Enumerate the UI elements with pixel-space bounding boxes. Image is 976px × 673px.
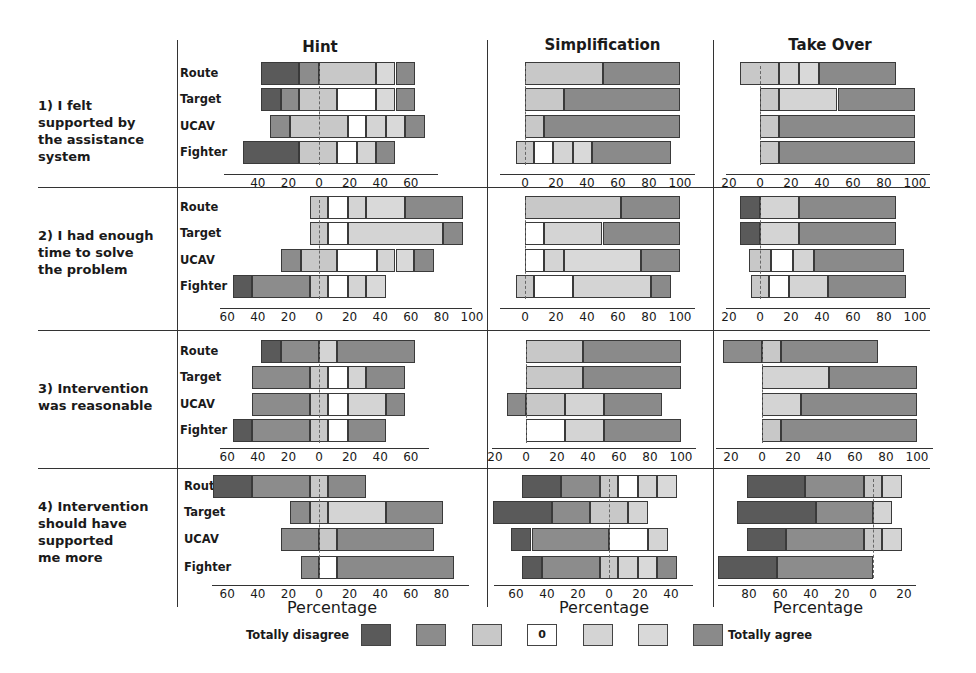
bar-segment-take-over-route bbox=[882, 475, 902, 498]
bar-segment-take-over-fighter bbox=[769, 275, 789, 298]
bar-segment-hint-target bbox=[386, 501, 443, 524]
question-1-label: 1) I felt supported by the assistance sy… bbox=[38, 97, 178, 165]
bar-segment-take-over-target bbox=[760, 88, 779, 111]
bar-segment-hint-ucav bbox=[328, 393, 348, 416]
bar-segment-simplification-route bbox=[583, 340, 681, 363]
bar-segment-simplification-fighter bbox=[657, 556, 677, 579]
legend-swatch-5 bbox=[583, 624, 613, 646]
bar-segment-hint-fighter bbox=[252, 275, 310, 298]
bar-segment-simplification-ucav bbox=[609, 528, 648, 551]
x-tick-label: 100 bbox=[669, 176, 692, 190]
bar-segment-hint-route bbox=[261, 340, 281, 363]
x-tick-label: 80 bbox=[876, 310, 891, 324]
x-tick-label: 0 bbox=[522, 450, 530, 464]
x-axis-hint bbox=[212, 585, 469, 586]
x-tick-label: 100 bbox=[669, 310, 692, 324]
category-label-fighter: Fighter bbox=[180, 279, 227, 293]
category-label-ucav: UCAV bbox=[180, 397, 215, 411]
x-tick-label: 100 bbox=[461, 310, 484, 324]
x-tick-label: 40 bbox=[373, 176, 388, 190]
x-tick-label: 20 bbox=[281, 450, 296, 464]
bar-segment-take-over-ucav bbox=[771, 249, 793, 272]
bar-segment-simplification-fighter bbox=[526, 419, 565, 442]
bar-segment-hint-route bbox=[348, 196, 366, 219]
bar-segment-hint-route bbox=[213, 475, 251, 498]
bar-segment-take-over-route bbox=[781, 340, 879, 363]
legend-label-totally-disagree: Totally disagree bbox=[246, 628, 349, 642]
bar-segment-take-over-route bbox=[723, 340, 762, 363]
bar-segment-hint-route bbox=[376, 62, 396, 85]
bar-segment-hint-ucav bbox=[337, 249, 377, 272]
bar-segment-hint-ucav bbox=[386, 393, 404, 416]
zero-reference-line bbox=[873, 479, 874, 578]
zero-reference-line bbox=[762, 344, 763, 443]
bar-segment-hint-target bbox=[252, 366, 310, 389]
x-tick-label: 20 bbox=[548, 310, 563, 324]
x-tick-label: 80 bbox=[641, 310, 656, 324]
bar-segment-hint-target bbox=[348, 366, 366, 389]
bar-segment-simplification-target bbox=[603, 222, 681, 245]
bar-segment-take-over-target bbox=[799, 222, 897, 245]
bar-segment-simplification-fighter bbox=[522, 556, 542, 579]
x-axis-simplification bbox=[500, 308, 695, 309]
x-axis-take-over bbox=[718, 585, 916, 586]
x-tick-label: 100 bbox=[904, 176, 927, 190]
bar-segment-take-over-fighter bbox=[760, 141, 779, 164]
zero-reference-line bbox=[319, 66, 320, 165]
bar-segment-hint-ucav bbox=[386, 115, 404, 138]
x-tick-label: 60 bbox=[611, 450, 626, 464]
bar-segment-take-over-ucav bbox=[747, 528, 786, 551]
bar-segment-hint-target bbox=[290, 501, 310, 524]
q1-line: the assistance bbox=[38, 131, 178, 148]
bar-segment-hint-route bbox=[328, 475, 366, 498]
x-tick-label: 60 bbox=[610, 176, 625, 190]
x-tick-label: 20 bbox=[723, 450, 738, 464]
bar-segment-take-over-ucav bbox=[779, 115, 915, 138]
bar-segment-take-over-fighter bbox=[777, 556, 873, 579]
bar-segment-simplification-fighter bbox=[565, 419, 604, 442]
x-tick-label: 60 bbox=[508, 587, 523, 601]
bar-segment-take-over-route bbox=[805, 475, 864, 498]
x-tick-label: 100 bbox=[906, 450, 929, 464]
bar-segment-hint-ucav bbox=[337, 528, 433, 551]
x-tick-label: 20 bbox=[281, 176, 296, 190]
x-tick-label: 0 bbox=[315, 450, 323, 464]
bar-segment-hint-ucav bbox=[319, 528, 337, 551]
divider-vertical-right bbox=[713, 40, 714, 607]
bar-segment-hint-fighter bbox=[328, 275, 348, 298]
bar-segment-simplification-route bbox=[526, 340, 583, 363]
bar-segment-take-over-route bbox=[762, 340, 781, 363]
q4-line: should have bbox=[38, 515, 178, 532]
bar-segment-take-over-ucav bbox=[786, 528, 864, 551]
bar-segment-take-over-ucav bbox=[814, 249, 904, 272]
q1-line: 1) I felt bbox=[38, 97, 178, 114]
bar-segment-hint-target bbox=[348, 222, 443, 245]
x-tick-label: 20 bbox=[549, 450, 564, 464]
x-tick-label: 20 bbox=[281, 310, 296, 324]
x-tick-label: 40 bbox=[579, 310, 594, 324]
x-tick-label: 60 bbox=[845, 310, 860, 324]
q2-line: 2) I had enough bbox=[38, 227, 178, 244]
zero-reference-line bbox=[525, 66, 526, 165]
bar-segment-hint-ucav bbox=[414, 249, 434, 272]
category-label-target: Target bbox=[180, 370, 221, 384]
x-axis-simplification bbox=[500, 174, 695, 175]
q1-line: system bbox=[38, 148, 178, 165]
x-tick-label: 80 bbox=[878, 450, 893, 464]
bar-segment-hint-ucav bbox=[270, 115, 290, 138]
legend-swatch-2 bbox=[416, 624, 446, 646]
bar-segment-hint-fighter bbox=[348, 275, 366, 298]
x-axis-take-over bbox=[726, 174, 931, 175]
x-tick-label: 0 bbox=[521, 310, 529, 324]
x-axis-hint bbox=[220, 308, 472, 309]
x-tick-label: 40 bbox=[814, 310, 829, 324]
bar-segment-hint-ucav bbox=[377, 249, 395, 272]
x-tick-label: 20 bbox=[783, 176, 798, 190]
legend-label-totally-agree: Totally agree bbox=[728, 628, 812, 642]
x-tick-label: 80 bbox=[641, 176, 656, 190]
bar-segment-hint-fighter bbox=[243, 141, 300, 164]
bar-segment-take-over-target bbox=[816, 501, 873, 524]
bar-segment-take-over-route bbox=[819, 62, 897, 85]
question-4-label: 4) Intervention should have supported me… bbox=[38, 498, 178, 566]
x-tick-label: 60 bbox=[220, 450, 235, 464]
